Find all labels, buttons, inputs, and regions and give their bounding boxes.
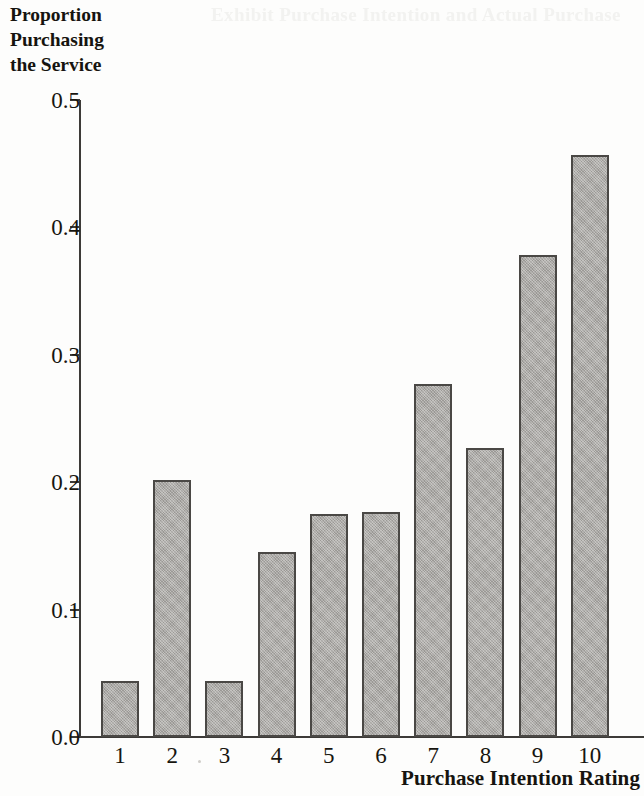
bar xyxy=(466,448,504,737)
y-tick-label: 0.1 xyxy=(28,599,80,622)
x-tick-label: 6 xyxy=(355,744,407,767)
x-tick-label: 10 xyxy=(564,744,616,767)
x-tick-label: 8 xyxy=(459,744,511,767)
bar xyxy=(258,552,296,737)
x-tick-label: 7 xyxy=(407,744,459,767)
scan-speck xyxy=(198,760,201,763)
chart-plot-area: 0.50.40.30.20.10.0 12345678910 xyxy=(0,0,644,796)
bar xyxy=(205,681,243,737)
bar xyxy=(310,514,348,737)
y-tick-label: 0.3 xyxy=(28,344,80,367)
x-axis-title: Purchase Intention Rating xyxy=(401,766,640,791)
bar xyxy=(571,155,609,737)
x-tick-label: 1 xyxy=(94,744,146,767)
y-tick-label: 0.4 xyxy=(28,216,80,239)
x-tick-label: 9 xyxy=(512,744,564,767)
y-tick-label: 0.0 xyxy=(28,726,80,749)
bar xyxy=(362,512,400,737)
bar xyxy=(414,384,452,737)
y-axis-line xyxy=(79,100,81,738)
x-tick-label: 3 xyxy=(198,744,250,767)
bar xyxy=(519,255,557,737)
y-tick-label: 0.2 xyxy=(28,471,80,494)
x-tick-label: 4 xyxy=(251,744,303,767)
x-tick-label: 5 xyxy=(303,744,355,767)
x-tick-label: 2 xyxy=(146,744,198,767)
bar xyxy=(101,681,139,737)
y-tick-label: 0.5 xyxy=(28,89,80,112)
bar xyxy=(153,480,191,737)
